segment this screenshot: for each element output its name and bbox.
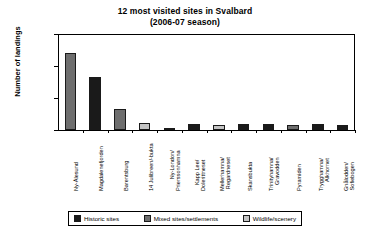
bar-series (58, 34, 355, 130)
x-tick-label: Ny-Ålesund (73, 162, 79, 191)
x-tick-label-line: Gravodden (274, 157, 280, 191)
legend-swatch-icon (144, 215, 151, 222)
bar (213, 125, 224, 130)
bar-slot (213, 34, 224, 130)
legend-swatch-icon (243, 215, 250, 222)
x-tick-label-line: Regardneset (225, 157, 231, 191)
bar-slot (114, 34, 125, 130)
chart-legend: Historic sitesMixed sites/settlementsWil… (68, 211, 302, 226)
x-tick-label: Gnålodden/Sofiebogen (343, 162, 355, 191)
y-axis-label: Number of landings (13, 12, 22, 112)
x-tick-label: Trinityhamna/Gravodden (268, 157, 280, 191)
bar (263, 124, 274, 130)
bar-slot (312, 34, 323, 130)
x-tick-label: Mellerhamna/Regardneset (219, 157, 231, 191)
legend-item-historic[interactable]: Historic sites (74, 215, 119, 222)
x-tick-label-line: Magdalenefjorden (98, 146, 104, 191)
legend-swatch-icon (74, 215, 81, 222)
bar (139, 123, 150, 130)
legend-label: Wildlife/scenery (253, 215, 296, 222)
chart-title-block: 12 most visited sites in Svalbard (2006-… (0, 6, 370, 27)
bar-slot (263, 34, 274, 130)
chart-subtitle: (2006-07 season) (0, 17, 370, 28)
bar (238, 124, 249, 130)
x-tick-label-line: Sofiebogen (349, 162, 355, 191)
x-tick-label: 14 Julibreen/-bukta (148, 143, 154, 191)
bar-chart: 12 most visited sites in Svalbard (2006-… (0, 0, 370, 234)
bar (164, 128, 175, 130)
legend-label: Mixed sites/settlements (154, 215, 218, 222)
x-tick-label: Trygghamna/Alkhornet (318, 158, 330, 191)
x-tick-label: Barentsburg (123, 161, 129, 191)
bar (114, 109, 125, 130)
bar-slot (89, 34, 100, 130)
x-tick-label-line: Pyramiden (296, 164, 302, 191)
x-tick-label-line: Ny-Ålesund (73, 162, 79, 191)
x-axis-labels: Ny-ÅlesundMagdalenefjordenBarentsburg14 … (0, 133, 370, 195)
x-tick-label: Skansbukta (247, 162, 253, 191)
x-tick-label: Pyramiden (296, 164, 302, 191)
x-tick-label-line: Trygghamna/ (318, 158, 324, 191)
bar-slot (337, 34, 348, 130)
bar-slot (65, 34, 76, 130)
x-tick-label-line: Mellerhamna/ (219, 157, 225, 191)
bar (287, 125, 298, 130)
bar-slot (188, 34, 199, 130)
x-tick-label-line: Skansbukta (247, 162, 253, 191)
bar (89, 77, 100, 130)
bar-slot (139, 34, 150, 130)
bar-slot (164, 34, 175, 130)
x-tick-label: Magdalenefjorden (98, 146, 104, 191)
legend-item-mixed[interactable]: Mixed sites/settlements (144, 215, 218, 222)
x-tick-label-line: Barentsburg (123, 161, 129, 191)
bar (312, 124, 323, 130)
y-tick-mark (54, 130, 58, 131)
x-tick-label-line: Prierssonhamna (175, 150, 181, 191)
x-tick-label: Kapp Lee/Dolerittneset (194, 160, 206, 191)
x-tick-label-line: Dolerittneset (200, 160, 206, 191)
bar (65, 53, 76, 130)
chart-title: 12 most visited sites in Svalbard (0, 6, 370, 17)
bar (188, 124, 199, 130)
bar-slot (238, 34, 249, 130)
x-tick-label-line: Alkhornet (324, 158, 330, 191)
legend-label: Historic sites (84, 215, 119, 222)
x-tick-label: Ny-London/Prierssonhamna (169, 150, 181, 191)
x-tick-label-line: 14 Julibreen/-bukta (148, 143, 154, 191)
bar (337, 125, 348, 130)
legend-item-wildlife[interactable]: Wildlife/scenery (243, 215, 296, 222)
x-tick-label-line: Gnålodden/ (343, 162, 349, 191)
bar-slot (287, 34, 298, 130)
